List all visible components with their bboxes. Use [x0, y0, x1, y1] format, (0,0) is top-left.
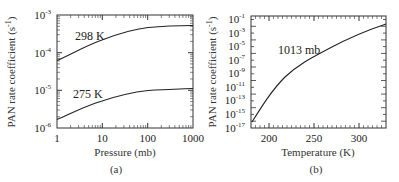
panel-b-xtick-300: 300 [351, 132, 368, 144]
panel-a-x-axis-label: Pressure (mb) [94, 146, 156, 159]
panel-b-plot-frame [251, 16, 386, 128]
panel-a-xtick-10: 10 [97, 132, 109, 144]
panel-b-ytick-1e-3: 10-3 [228, 26, 245, 39]
panel-b-xtick-250: 250 [306, 132, 323, 144]
panel-a-xtick-1000: 1000 [182, 132, 205, 144]
panel-b-curve-1013mb [252, 24, 386, 122]
panel-a-y-axis-label: PAN rate coefficient (s-1) [4, 16, 18, 127]
figure: PAN rate coefficient (s-1) 10-3 10-4 10-… [0, 0, 399, 182]
panel-b-ytick-1e-15: 10-15 [225, 107, 246, 120]
panel-a-y-major-ticks [57, 53, 193, 91]
panel-a-xtick-1: 1 [54, 132, 60, 144]
panel-b-x-major-ticks [269, 16, 359, 128]
panel-a-caption: (a) [110, 163, 123, 176]
panel-a-ytick-1e-3: 10-3 [34, 8, 51, 21]
panel-a-label-298K: 298 K [75, 29, 105, 43]
panel-a-label-275K: 275 K [73, 87, 103, 101]
panel-b-ytick-1e-9: 10-9 [228, 66, 245, 79]
panel-b-ytick-1e-7: 10-7 [228, 53, 245, 66]
panel-b-label-1013mb: 1013 mb [278, 43, 320, 57]
panel-b: PAN rate coefficient (s-1) 10-1 10-3 10-… [205, 12, 386, 176]
panel-a: PAN rate coefficient (s-1) 10-3 10-4 10-… [4, 8, 205, 176]
panel-b-caption: (b) [310, 163, 323, 176]
panel-b-ytick-1e-17: 10-17 [225, 121, 246, 134]
panel-a-ytick-1e-6: 10-6 [34, 121, 51, 134]
panel-a-x-tick-labels: 1 10 100 1000 [54, 132, 204, 144]
panel-b-y-ticks: 10-1 10-3 10-5 10-7 10-9 10-11 10-13 10-… [225, 12, 246, 134]
panel-a-y-ticks: 10-3 10-4 10-5 10-6 [34, 8, 51, 134]
panel-a-ytick-1e-4: 10-4 [34, 46, 51, 59]
panel-b-ytick-1e-13: 10-13 [225, 93, 246, 106]
panel-b-y-ticks-marks [251, 20, 386, 122]
panel-b-ytick-1e-5: 10-5 [228, 39, 245, 52]
panel-a-xtick-100: 100 [139, 132, 156, 144]
panel-b-ytick-1e-11: 10-11 [225, 80, 246, 93]
panel-b-xtick-200: 200 [261, 132, 278, 144]
panel-b-x-tick-labels: 200 250 300 [261, 132, 368, 144]
panel-b-ytick-1e-1: 10-1 [228, 12, 245, 25]
panel-b-y-axis-label: PAN rate coefficient (s-1) [205, 16, 219, 127]
panel-a-ytick-1e-5: 10-5 [34, 83, 51, 96]
panel-b-x-axis-label: Temperature (K) [281, 146, 355, 159]
